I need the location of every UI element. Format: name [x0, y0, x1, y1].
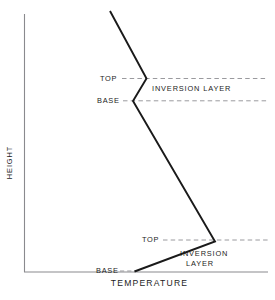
- annotation-inversion-layer-lower-line1: INVERSION: [180, 250, 228, 257]
- plot-area: [0, 0, 275, 300]
- annotation-top-upper: TOP: [100, 75, 117, 82]
- annotation-base-upper: BASE: [97, 97, 120, 104]
- annotation-top-lower: TOP: [142, 236, 159, 243]
- temperature-profile-line: [110, 11, 215, 272]
- annotation-base-lower: BASE: [96, 267, 119, 274]
- annotation-inversion-layer-lower-line2: LAYER: [186, 260, 214, 267]
- annotation-inversion-layer-upper: INVERSION LAYER: [152, 85, 231, 92]
- temperature-inversion-figure: HEIGHT TOP BASE INVERSION LAYER TOP BASE…: [0, 0, 275, 300]
- x-axis-title: TEMPERATURE: [0, 278, 275, 288]
- y-axis-title: HEIGHT: [5, 141, 14, 185]
